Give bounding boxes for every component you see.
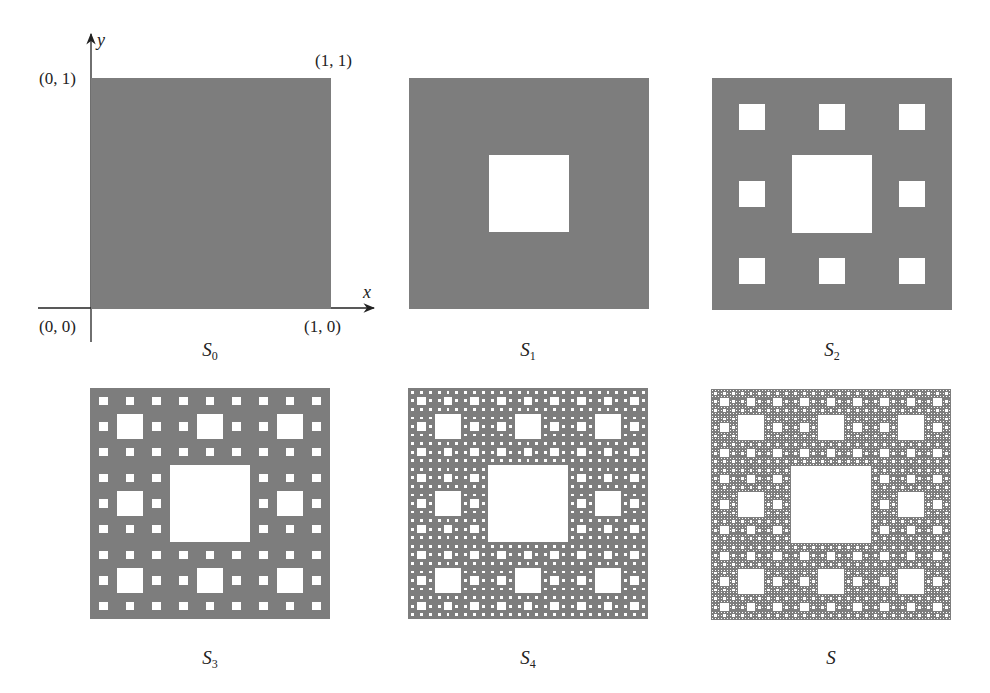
point-label-corner: (1, 1) xyxy=(315,52,352,69)
caption-letter: S xyxy=(520,647,530,668)
caption-letter: S xyxy=(202,339,212,360)
y-axis-label: y xyxy=(97,31,105,49)
point-label-origin: (0, 0) xyxy=(39,318,76,335)
point-label-x-unit: (1, 0) xyxy=(304,318,341,335)
caption-subscript: 1 xyxy=(530,349,536,363)
caption-s: S xyxy=(826,648,836,667)
caption-subscript: 4 xyxy=(530,657,536,671)
caption-s1: S1 xyxy=(520,340,536,362)
x-axis-label: x xyxy=(363,283,371,301)
caption-letter: S xyxy=(826,647,836,668)
caption-letter: S xyxy=(824,339,834,360)
caption-s2: S2 xyxy=(824,340,840,362)
carpet-s xyxy=(711,389,951,620)
caption-letter: S xyxy=(520,339,530,360)
carpet-s1 xyxy=(409,78,649,309)
point-label-y-unit: (0, 1) xyxy=(39,70,76,87)
caption-subscript: 0 xyxy=(212,349,218,363)
caption-s3: S3 xyxy=(202,648,218,670)
carpet-s0 xyxy=(91,78,331,309)
carpet-s3 xyxy=(90,388,330,619)
caption-s0: S0 xyxy=(202,340,218,362)
caption-subscript: 3 xyxy=(212,657,218,671)
caption-letter: S xyxy=(202,647,212,668)
carpet-s4 xyxy=(408,388,648,619)
caption-subscript: 2 xyxy=(834,349,840,363)
carpet-s2 xyxy=(712,78,952,310)
caption-s4: S4 xyxy=(520,648,536,670)
